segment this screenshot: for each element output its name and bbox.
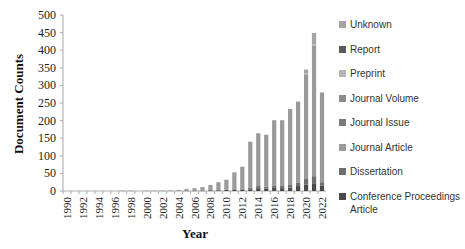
- bar-segment-journal-article: [161, 191, 165, 192]
- x-tick-label: 2006: [189, 197, 201, 220]
- x-tick-label: 2022: [316, 197, 328, 219]
- bar-segment-dissertation: [320, 182, 324, 186]
- bar-segment-journal-article: [200, 187, 204, 191]
- legend-label: Conference Proceedings Article: [350, 190, 465, 216]
- bar-segment-conference-proceedings-article: [280, 188, 284, 191]
- x-tick-label: 2012: [236, 197, 248, 219]
- x-tick-label: 2020: [300, 197, 312, 220]
- legend-label: Dissertation: [350, 165, 403, 178]
- legend-swatch: [339, 70, 346, 77]
- bar-segment-journal-article: [184, 189, 188, 191]
- bar-segment-dissertation: [296, 183, 300, 187]
- bar-segment-conference-proceedings-article: [256, 188, 260, 191]
- bar-segment-conference-proceedings-article: [248, 189, 252, 191]
- bar-segment-dissertation: [272, 185, 276, 187]
- legend-item: Journal Article: [339, 141, 465, 166]
- legend-item: Unknown: [339, 18, 465, 43]
- x-tick-label: 1996: [109, 197, 121, 220]
- x-tick-label: 1992: [77, 197, 89, 219]
- bar-segment-journal-article: [256, 133, 260, 186]
- bar-segment-unknown: [304, 70, 308, 74]
- bar-segment-journal-article: [320, 92, 324, 182]
- bar-segment-conference-proceedings-article: [232, 190, 236, 191]
- y-tick-label: 50: [44, 166, 56, 180]
- bar-segment-conference-proceedings-article: [200, 191, 204, 192]
- bar-segment-conference-proceedings-article: [288, 187, 292, 191]
- bar-segment-conference-proceedings-article: [240, 190, 244, 191]
- y-tick-label: 150: [38, 131, 56, 145]
- y-tick-label: 100: [38, 149, 56, 163]
- plot-area: 0501001502002503003504004505001990199219…: [38, 8, 328, 219]
- bar-segment-preprint: [312, 45, 316, 46]
- legend-swatch: [339, 119, 346, 126]
- bar-segment-journal-article: [224, 180, 228, 190]
- bar-segment-unknown: [312, 33, 316, 45]
- bar-segment-conference-proceedings-article: [304, 185, 308, 191]
- bar-segment-journal-article: [208, 185, 212, 190]
- bar-segment-journal-article: [304, 75, 308, 179]
- legend: UnknownReportPreprintJournal VolumeJourn…: [339, 18, 465, 214]
- bar-segment-journal-article: [280, 120, 284, 186]
- y-tick-label: 350: [38, 61, 56, 75]
- x-tick-label: 1990: [61, 197, 73, 220]
- legend-item: Dissertation: [339, 165, 465, 190]
- bar-segment-conference-proceedings-article: [264, 189, 268, 191]
- x-tick-label: 2014: [252, 197, 264, 220]
- x-tick-label: 2016: [268, 197, 280, 220]
- x-tick-label: 2002: [157, 197, 169, 219]
- x-tick-label: 2018: [284, 197, 296, 220]
- x-tick-label: 1998: [125, 197, 137, 220]
- bar-segment-dissertation: [288, 184, 292, 187]
- legend-item: Preprint: [339, 67, 465, 92]
- x-axis-title: Year: [182, 226, 208, 241]
- legend-swatch: [339, 193, 346, 200]
- bar-segment-dissertation: [240, 189, 244, 190]
- legend-swatch: [339, 46, 346, 53]
- y-tick-label: 500: [38, 8, 56, 22]
- bar-segment-journal-article: [240, 167, 244, 189]
- bar-segment-conference-proceedings-article: [320, 186, 324, 191]
- bar-segment-dissertation: [312, 176, 316, 183]
- legend-swatch: [339, 21, 346, 28]
- bar-segment-journal-article: [232, 172, 236, 189]
- bar-segment-conference-proceedings-article: [192, 191, 196, 192]
- bar-segment-journal-article: [192, 188, 196, 190]
- x-tick-label: 1994: [93, 197, 105, 220]
- y-tick-label: 200: [38, 114, 56, 128]
- bar-segment-journal-article: [264, 135, 268, 187]
- legend-swatch: [339, 144, 346, 151]
- bar-segment-journal-article: [272, 120, 276, 185]
- bar-segment-journal-article: [312, 46, 316, 176]
- bar-segment-conference-proceedings-article: [184, 191, 188, 192]
- y-tick-label: 400: [38, 43, 56, 57]
- legend-label: Journal Volume: [350, 92, 419, 105]
- bar-segment-conference-proceedings-article: [272, 188, 276, 191]
- bar-segment-journal-article: [176, 190, 180, 191]
- bar-segment-journal-article: [129, 191, 133, 192]
- legend-label: Journal Article: [350, 141, 413, 154]
- bar-segment-conference-proceedings-article: [312, 183, 316, 191]
- legend-item: Report: [339, 43, 465, 68]
- legend-label: Journal Issue: [350, 116, 409, 129]
- legend-item: Conference Proceedings Article: [339, 190, 465, 215]
- legend-swatch: [339, 95, 346, 102]
- y-tick-label: 300: [38, 78, 56, 92]
- bar-segment-journal-article: [248, 142, 252, 188]
- y-tick-label: 250: [38, 96, 56, 110]
- bar-segment-journal-article: [168, 190, 172, 191]
- bar-segment-dissertation: [304, 179, 308, 185]
- legend-swatch: [339, 168, 346, 175]
- bar-segment-journal-article: [153, 191, 157, 192]
- bar-segment-dissertation: [224, 190, 228, 191]
- x-tick-label: 2008: [204, 197, 216, 220]
- legend-item: Journal Issue: [339, 116, 465, 141]
- y-tick-label: 0: [50, 184, 56, 198]
- bar-segment-conference-proceedings-article: [224, 190, 228, 191]
- legend-item: Journal Volume: [339, 92, 465, 117]
- bar-segment-dissertation: [248, 188, 252, 189]
- bar-segment-dissertation: [232, 189, 236, 190]
- bar-segment-preprint: [304, 73, 308, 75]
- y-axis-title: Document Counts: [11, 54, 26, 154]
- legend-label: Preprint: [350, 67, 385, 80]
- bar-segment-dissertation: [264, 187, 268, 189]
